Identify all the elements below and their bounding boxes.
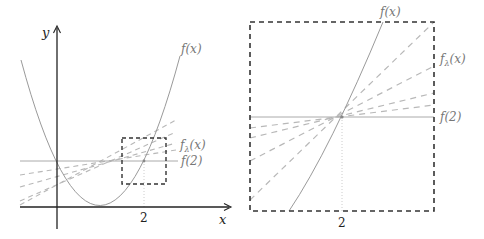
f-lambda-lines-zoomed (250, 22, 434, 200)
left-panel: y x 2 f(x) fλ(x) f(2) (20, 25, 231, 229)
f-lambda-lines (20, 120, 176, 205)
f-label: f(x) (180, 42, 202, 56)
x-tick-2: 2 (140, 211, 148, 225)
right-panel: f(x) fλ(x) f(2) 2 (250, 5, 466, 230)
f-label-zoomed: f(x) (379, 5, 401, 19)
f-lambda-label-zoomed: fλ(x) (439, 52, 466, 68)
intersection-point (143, 160, 146, 163)
intersection-point-zoomed (340, 115, 343, 118)
diagram-canvas: y x 2 f(x) fλ(x) f(2) (0, 0, 484, 239)
f-curve (21, 56, 180, 206)
f-lambda-label: fλ(x) (179, 138, 206, 154)
f2-label-zoomed: f(2) (439, 110, 462, 124)
f2-label: f(2) (180, 154, 203, 168)
x-axis-label: x (219, 212, 227, 227)
x-tick-2-zoomed: 2 (338, 216, 346, 230)
y-axis-label: y (41, 25, 50, 40)
